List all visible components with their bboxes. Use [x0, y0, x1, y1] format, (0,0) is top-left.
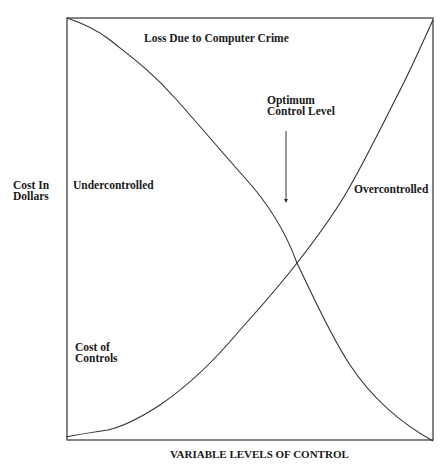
optimum-label-line2: Control Level	[267, 106, 335, 117]
undercontrolled-label: Undercontrolled	[73, 180, 154, 191]
chart-canvas	[0, 0, 445, 466]
arrow-head-icon	[284, 199, 288, 203]
loss-curve-label: Loss Due to Computer Crime	[144, 33, 289, 44]
overcontrolled-label: Overcontrolled	[354, 184, 428, 195]
cost-curve-label-line2: Controls	[75, 353, 118, 364]
loss-curve	[67, 18, 433, 441]
x-axis-label: VARIABLE LEVELS OF CONTROL	[170, 449, 349, 460]
y-axis-label-line2: Dollars	[13, 191, 49, 202]
cost-curve	[66, 20, 433, 437]
plot-frame	[67, 18, 433, 440]
